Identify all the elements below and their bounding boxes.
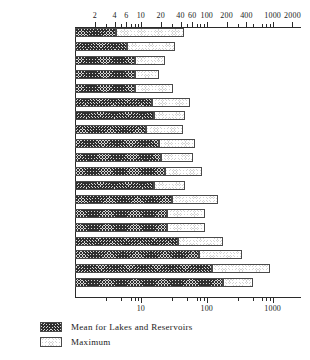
tick-top-minor-7	[131, 24, 132, 27]
bar-segment-maximum	[159, 139, 195, 148]
legend-item-mean: Mean for Lakes and Reservoirs	[40, 320, 193, 334]
bar-segment-maximum	[152, 98, 190, 107]
tick-top-minor-3	[106, 24, 107, 27]
tick-top-minor-800	[266, 24, 267, 27]
tick-top-2000	[292, 22, 293, 27]
tick-label-top-10: 10	[137, 11, 145, 20]
bar-segment-maximum	[154, 111, 184, 120]
tick-top-6	[126, 22, 127, 27]
tick-top-minor-700	[262, 24, 263, 27]
tick-top-minor-300	[238, 24, 239, 27]
bar-row	[75, 195, 300, 204]
tick-bottom-minor-80	[200, 298, 201, 301]
tick-top-10	[141, 22, 142, 27]
tick-top-100	[207, 22, 208, 27]
bar-segment-mean	[75, 250, 199, 259]
tick-label-bottom-10: 10	[137, 304, 145, 313]
tick-bottom-minor-800	[266, 298, 267, 301]
bar-segment-maximum	[167, 209, 205, 218]
tick-bottom-minor-70	[197, 298, 198, 301]
bar-segment-mean	[75, 278, 223, 287]
bar-segment-maximum	[165, 167, 202, 176]
tick-top-60	[192, 22, 193, 27]
bar-segment-maximum	[167, 223, 205, 232]
bar-segment-maximum	[135, 70, 160, 79]
tick-bottom-minor-300	[238, 298, 239, 301]
tick-bottom-minor-500	[253, 298, 254, 301]
bar-segment-mean	[75, 209, 167, 218]
tick-bottom-minor-3	[106, 298, 107, 301]
bar-row	[75, 111, 300, 120]
tick-top-minor-500	[253, 24, 254, 27]
tick-top-4	[115, 22, 116, 27]
bar-row	[75, 237, 300, 246]
tick-top-200	[227, 22, 228, 27]
tick-top-minor-70	[197, 24, 198, 27]
bar-row	[75, 28, 300, 37]
tick-bottom-minor-9	[138, 298, 139, 301]
tick-label-bottom-1000: 1000	[264, 304, 281, 313]
bar-row	[75, 98, 300, 107]
bar-segment-mean	[75, 139, 159, 148]
bar-segment-mean	[75, 223, 167, 232]
tick-label-top-4: 4	[113, 11, 117, 20]
tick-bottom-minor-5	[121, 298, 122, 301]
chart-legend: Mean for Lakes and Reservoirs Maximum	[40, 320, 193, 350]
legend-label-maximum: Maximum	[71, 337, 111, 347]
bar-row	[75, 264, 300, 273]
bar-segment-mean	[75, 70, 135, 79]
bar-segment-maximum	[135, 56, 165, 65]
legend-swatch-mean	[40, 322, 62, 332]
tick-label-top-60: 60	[188, 11, 196, 20]
bar-row	[75, 181, 300, 190]
fish-abundance-log-bar-chart: 2461020406010020040010002000101001000 Tr…	[0, 0, 310, 360]
tick-label-top-40: 40	[176, 11, 184, 20]
bar-segment-maximum	[178, 237, 222, 246]
legend-item-maximum: Maximum	[40, 335, 193, 349]
bar-segment-mean	[75, 111, 154, 120]
tick-label-top-100: 100	[200, 11, 213, 20]
tick-bottom-10	[141, 298, 142, 303]
bar-segment-maximum	[199, 250, 242, 259]
tick-top-minor-90	[204, 24, 205, 27]
bar-segment-maximum	[116, 28, 184, 37]
bar-row	[75, 56, 300, 65]
tick-label-top-1000: 1000	[264, 11, 281, 20]
tick-top-1000	[273, 22, 274, 27]
bar-segment-maximum	[146, 125, 183, 134]
bar-row	[75, 167, 300, 176]
tick-bottom-minor-8	[135, 298, 136, 301]
bar-row	[75, 209, 300, 218]
bar-segment-mean	[75, 181, 154, 190]
bar-segment-mean	[75, 153, 161, 162]
tick-top-minor-5	[121, 24, 122, 27]
tick-top-minor-900	[270, 24, 271, 27]
tick-bottom-minor-700	[262, 298, 263, 301]
bars-layer	[75, 28, 300, 296]
bar-row	[75, 153, 300, 162]
bar-segment-mean	[75, 125, 146, 134]
bar-segment-maximum	[161, 153, 193, 162]
tick-top-20	[161, 22, 162, 27]
bar-segment-mean	[75, 42, 127, 51]
tick-label-top-2000: 2000	[284, 11, 301, 20]
bar-row	[75, 84, 300, 93]
bar-segment-maximum	[127, 42, 175, 51]
tick-bottom-100	[207, 298, 208, 303]
bar-row	[75, 70, 300, 79]
tick-label-top-6: 6	[124, 11, 128, 20]
tick-top-2	[95, 22, 96, 27]
bar-row	[75, 223, 300, 232]
legend-swatch-maximum	[40, 337, 62, 347]
bar-segment-mean	[75, 167, 165, 176]
bar-segment-mean	[75, 264, 212, 273]
bar-row	[75, 250, 300, 259]
tick-top-minor-50	[187, 24, 188, 27]
bar-segment-mean	[75, 98, 152, 107]
bar-segment-mean	[75, 195, 172, 204]
tick-label-top-400: 400	[240, 11, 253, 20]
tick-bottom-minor-900	[270, 298, 271, 301]
bar-segment-mean	[75, 237, 178, 246]
tick-bottom-minor-30	[172, 298, 173, 301]
tick-label-top-2: 2	[93, 11, 97, 20]
